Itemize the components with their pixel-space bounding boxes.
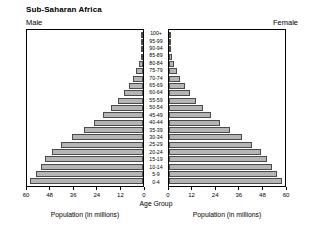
axis-tick [26,187,27,190]
bar-row [27,53,143,60]
bar-row [169,31,285,38]
female-bar-85-89 [169,54,172,60]
bar-row [169,90,285,97]
bar-row [169,46,285,53]
bar-row [169,53,285,60]
bar-row [27,104,143,111]
age-group-labels: 100+95-9990-9485-8980-8475-7970-7465-696… [144,29,168,187]
bar-row [27,163,143,170]
female-bar-5-9 [169,171,277,177]
bar-row [27,119,143,126]
age-group-label: 40-44 [144,119,168,126]
page-title: Sub-Saharan Africa [26,5,102,14]
male-x-tick-labels: 60483624120 [26,191,144,200]
age-group-label: 45-49 [144,112,168,119]
male-axis-caption: Population (in millions) [26,211,144,218]
age-group-label: 80-84 [144,60,168,67]
axis-tick [120,187,121,190]
axis-tick [215,187,216,190]
bar-row [27,178,143,185]
female-bar-60-64 [169,90,190,96]
male-bar-35-39 [84,127,143,133]
bar-row [169,104,285,111]
male-bar-45-49 [103,112,143,118]
female-x-tick-labels: 01224364860 [168,191,286,200]
male-bar-5-9 [36,171,143,177]
bar-row [169,75,285,82]
axis-tick [238,187,239,190]
male-bar-rows [27,30,143,186]
axis-tick-label: 24 [93,191,100,200]
female-bar-90-94 [169,46,171,52]
age-group-label: 55-59 [144,97,168,104]
axis-tick [49,187,50,190]
axis-tick-label: 12 [188,191,195,200]
bar-row [169,97,285,104]
bar-row [169,38,285,45]
age-group-label: 70-74 [144,75,168,82]
bar-row [27,82,143,89]
bar-row [27,112,143,119]
bar-row [27,170,143,177]
bar-row [27,134,143,141]
male-bar-70-74 [133,76,143,82]
axis-tick-label: 0 [142,191,145,200]
bar-row [169,112,285,119]
male-bar-65-69 [129,83,143,89]
age-group-label: 20-24 [144,149,168,156]
axis-tick-label: 60 [283,191,290,200]
male-bar-0-4 [30,178,143,184]
population-pyramid-chart: Sub-Saharan Africa Male Female 100+95-99… [0,0,312,234]
bar-row [27,141,143,148]
female-side-label: Female [273,18,298,27]
male-bar-95-99 [141,39,143,45]
female-bar-50-54 [169,105,203,111]
female-axis-caption: Population (in millions) [168,211,286,218]
axis-tick [96,187,97,190]
axis-tick [262,187,263,190]
bar-row [27,31,143,38]
axis-tick-label: 12 [117,191,124,200]
male-bar-75-79 [136,68,143,74]
age-group-label: 10-14 [144,164,168,171]
male-plot-panel [26,29,144,187]
female-bar-15-19 [169,156,267,162]
male-side-label: Male [26,18,42,27]
axis-tick-label: 24 [212,191,219,200]
bar-row [169,82,285,89]
male-bar-55-59 [118,98,143,104]
female-bar-0-4 [169,178,282,184]
male-bar-15-19 [45,156,143,162]
female-bar-45-49 [169,112,211,118]
bar-row [169,126,285,133]
bar-row [169,60,285,67]
female-bar-30-34 [169,134,242,140]
bar-row [169,148,285,155]
female-bar-70-74 [169,76,180,82]
axis-tick-label: 48 [259,191,266,200]
female-bar-75-79 [169,68,177,74]
age-group-label: 0-4 [144,178,168,185]
age-group-label: 30-34 [144,134,168,141]
age-group-label: 90-94 [144,45,168,52]
age-group-label: 60-64 [144,89,168,96]
axis-tick-label: 0 [166,191,169,200]
male-bar-100+ [141,32,143,38]
bar-row [27,38,143,45]
female-bar-55-59 [169,98,196,104]
male-bar-30-34 [72,134,143,140]
bar-row [27,126,143,133]
age-group-label: 75-79 [144,67,168,74]
female-bar-40-44 [169,120,220,126]
bar-row [169,163,285,170]
age-group-label: 35-39 [144,126,168,133]
bar-row [27,90,143,97]
axis-tick [191,187,192,190]
male-bar-85-89 [141,54,143,60]
age-group-label: 65-69 [144,82,168,89]
female-bar-80-84 [169,61,174,67]
bar-row [169,134,285,141]
axis-tick-label: 60 [23,191,30,200]
male-bar-90-94 [141,46,143,52]
female-bar-65-69 [169,83,185,89]
